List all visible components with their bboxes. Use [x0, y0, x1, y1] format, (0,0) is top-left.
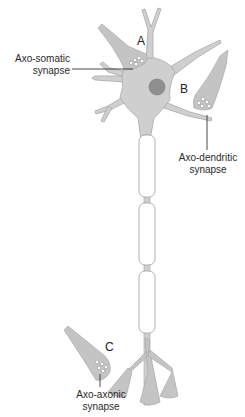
- label-axo-somatic: Axo-somatic synapse: [8, 53, 70, 77]
- label-axo-somatic-line1: Axo-somatic: [8, 53, 70, 65]
- myelin-sheath-3: [139, 271, 155, 333]
- label-axo-axonic: Axo-axonic synapse: [66, 389, 136, 413]
- label-axo-axonic-line2: synapse: [66, 401, 136, 413]
- label-axo-axonic-line1: Axo-axonic: [66, 389, 136, 401]
- terminal-b: [193, 50, 228, 110]
- myelin-sheath-1: [139, 135, 155, 197]
- marker-a: A: [137, 34, 145, 48]
- terminal-c: [64, 326, 110, 380]
- nucleus: [149, 79, 165, 95]
- marker-b: B: [180, 82, 188, 96]
- label-axo-dendritic: Axo-dendritic synapse: [172, 152, 244, 176]
- label-axo-dendritic-line2: synapse: [172, 164, 244, 176]
- myelin-sheath-2: [139, 203, 155, 265]
- label-axo-somatic-line2: synapse: [8, 65, 70, 77]
- label-axo-dendritic-line1: Axo-dendritic: [172, 152, 244, 164]
- marker-c: C: [105, 340, 114, 354]
- cell-body: [120, 58, 175, 140]
